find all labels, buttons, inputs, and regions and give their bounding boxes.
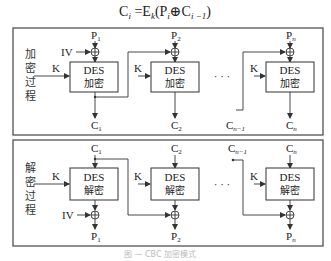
- enc-prev-cipher: Cn−1: [226, 119, 245, 133]
- des-box-mode: 加密: [165, 77, 185, 89]
- xor-icon: [171, 211, 179, 219]
- dec-key-label-2: K: [134, 170, 142, 182]
- decryption-side-label-1: 解: [25, 161, 36, 175]
- xor-icon: [286, 48, 294, 56]
- enc-input-p2: P2: [171, 29, 181, 43]
- decryption-side-label-3: 过: [25, 190, 36, 203]
- encryption-side-label-3: 过: [25, 76, 36, 89]
- decryption-panel: 解 密 过 程 C1 K DES 解密 IV P1 C2 K DES 解密 P2…: [13, 140, 323, 246]
- dec-output-pn: Pn: [286, 230, 296, 244]
- des-box-mode: 解密: [84, 184, 104, 196]
- cbc-mode-diagram: Ci =Ek(Pi⊕Ci −1) 加 密 过 程 P1 IV K DES 加密 …: [0, 0, 331, 261]
- xor-icon: [171, 48, 179, 56]
- encryption-side-label-1: 加: [25, 48, 36, 61]
- encryption-side-label-4: 程: [25, 90, 36, 103]
- des-box-label: DES: [165, 171, 186, 183]
- xor-icon: [91, 48, 99, 56]
- dec-key-label-n: K: [250, 170, 258, 182]
- enc-output-c2: C2: [171, 119, 182, 133]
- enc-key-label-1: K: [52, 62, 60, 74]
- enc-input-pn: Pn: [286, 29, 296, 43]
- des-box-mode: 加密: [84, 77, 104, 89]
- des-box-label: DES: [165, 64, 186, 76]
- dec-output-p2: P2: [171, 230, 181, 244]
- des-box-label: DES: [280, 64, 301, 76]
- enc-output-cn: Cn: [286, 119, 297, 133]
- dec-input-c2: C2: [171, 142, 182, 156]
- des-box-mode: 解密: [165, 184, 185, 196]
- dec-output-p1: P1: [91, 230, 101, 244]
- des-box-label: DES: [84, 171, 105, 183]
- decryption-side-label-4: 程: [25, 204, 36, 217]
- des-box-mode: 解密: [280, 184, 300, 196]
- dec-input-c1: C1: [91, 142, 102, 156]
- enc-key-label-n: K: [250, 62, 258, 74]
- encryption-panel: 加 密 过 程 P1 IV K DES 加密 C1 P2 K DES 加密 C2…: [13, 28, 323, 135]
- cbc-formula: Ci =Ek(Pi⊕Ci −1): [119, 4, 211, 21]
- des-box-label: DES: [280, 171, 301, 183]
- dec-prev-cipher: Cn−1: [228, 142, 247, 156]
- dec-key-label-1: K: [52, 170, 60, 182]
- dec-iv-label: IV: [62, 209, 74, 221]
- xor-icon: [91, 211, 99, 219]
- enc-ellipsis: · · ·: [214, 70, 231, 82]
- xor-icon: [286, 211, 294, 219]
- enc-output-c1: C1: [91, 119, 102, 133]
- enc-iv-label: IV: [61, 46, 73, 58]
- des-box-label: DES: [84, 64, 105, 76]
- dec-ellipsis: · · ·: [214, 178, 231, 190]
- des-box-mode: 加密: [280, 77, 300, 89]
- encryption-side-label-2: 密: [25, 61, 36, 75]
- enc-input-p1: P1: [91, 29, 101, 43]
- decryption-side-label-2: 密: [25, 175, 36, 189]
- enc-key-label-2: K: [134, 62, 142, 74]
- dec-input-cn: Cn: [286, 142, 297, 156]
- figure-caption: 图 — CBC 加密模式: [124, 249, 196, 259]
